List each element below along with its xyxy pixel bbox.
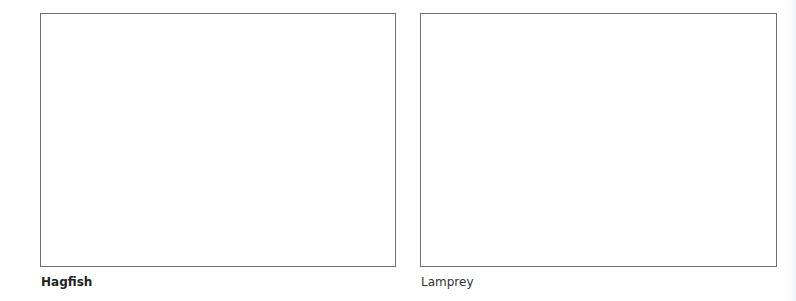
- lamprey-image-panel[interactable]: [420, 13, 777, 267]
- hagfish-caption: Hagfish: [41, 275, 92, 289]
- hagfish-image-panel[interactable]: [40, 13, 396, 267]
- page-edge-strip: [786, 0, 796, 301]
- lamprey-caption: Lamprey: [421, 275, 474, 289]
